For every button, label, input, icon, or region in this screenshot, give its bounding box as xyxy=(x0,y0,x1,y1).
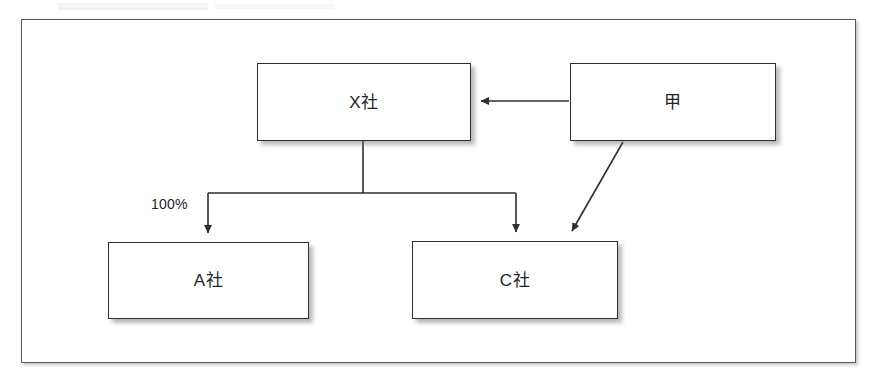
scan-artifact-band xyxy=(58,3,208,10)
node-kou-person-label: 甲 xyxy=(664,94,682,111)
node-c-company-label: C社 xyxy=(500,272,530,289)
scan-artifact-band-secondary xyxy=(215,4,335,9)
node-a-company-label: A社 xyxy=(194,272,223,289)
node-a-company[interactable]: A社 xyxy=(108,242,309,319)
node-x-company[interactable]: X社 xyxy=(257,63,471,141)
diagram-screenshot: X社 甲 A社 C社 100% xyxy=(0,0,878,381)
node-kou-person[interactable]: 甲 xyxy=(570,63,776,141)
node-x-company-label: X社 xyxy=(349,94,378,111)
node-c-company[interactable]: C社 xyxy=(412,241,618,319)
edge-label-ownership-percent: 100% xyxy=(151,196,188,212)
